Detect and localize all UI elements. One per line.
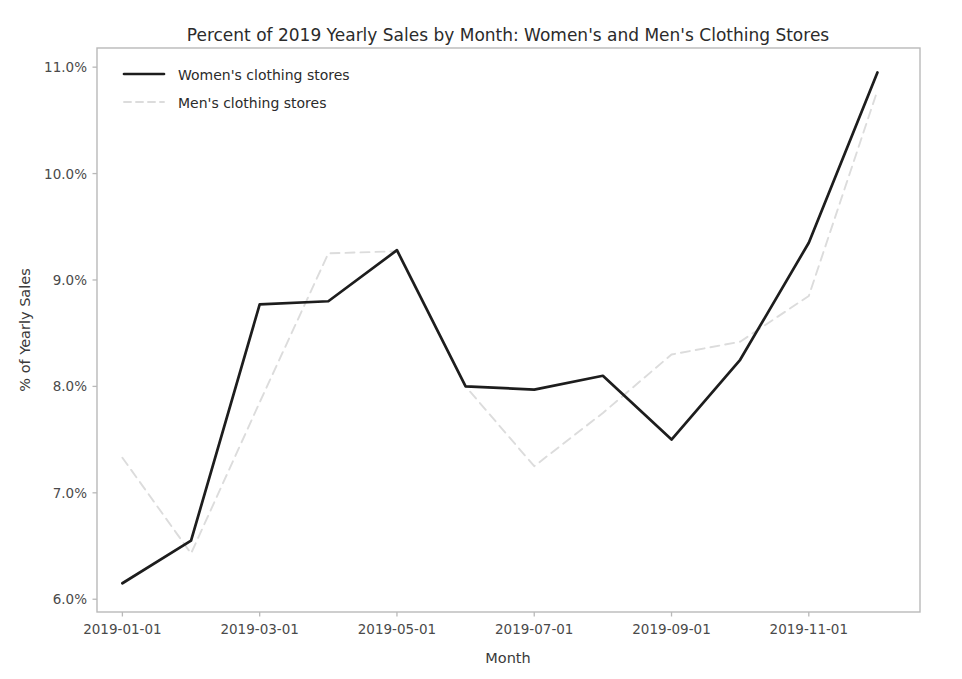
y-axis-label: % of Yearly Sales — [17, 268, 33, 391]
x-tick-label: 2019-11-01 — [770, 621, 848, 637]
y-tick-label: 11.0% — [44, 59, 87, 75]
x-tick-label: 2019-07-01 — [495, 621, 573, 637]
x-tick-label: 2019-09-01 — [632, 621, 710, 637]
x-axis-label: Month — [485, 650, 530, 666]
plot-area-background — [97, 48, 920, 612]
legend-label-1: Women's clothing stores — [178, 67, 350, 83]
y-tick-label: 8.0% — [53, 378, 87, 394]
y-tick-label: 10.0% — [44, 166, 87, 182]
y-tick-label: 9.0% — [53, 272, 87, 288]
x-tick-label: 2019-05-01 — [358, 621, 436, 637]
line-chart: Percent of 2019 Yearly Sales by Month: W… — [0, 0, 962, 679]
legend-label-2: Men's clothing stores — [178, 95, 326, 111]
chart-legend: Women's clothing storesMen's clothing st… — [112, 56, 357, 111]
chart-title: Percent of 2019 Yearly Sales by Month: W… — [187, 25, 830, 45]
x-tick-label: 2019-03-01 — [220, 621, 298, 637]
chart-figure: Percent of 2019 Yearly Sales by Month: W… — [0, 0, 962, 679]
y-tick-label: 7.0% — [53, 485, 87, 501]
x-tick-label: 2019-01-01 — [83, 621, 161, 637]
y-tick-label: 6.0% — [53, 591, 87, 607]
